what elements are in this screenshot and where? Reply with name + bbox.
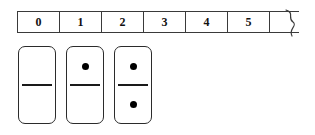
number-strip-cell-2[interactable]: 2 — [101, 11, 143, 33]
domino-1-0-bottom-half — [67, 85, 103, 123]
domino-row — [18, 46, 152, 124]
pip-icon — [82, 63, 89, 70]
domino-0-0-top-half — [19, 47, 55, 85]
number-strip-cell-5[interactable]: 5 — [227, 11, 269, 33]
number-strip-label-3: 3 — [162, 16, 168, 28]
number-strip-cell-3[interactable]: 3 — [143, 11, 185, 33]
number-strip-cell-4[interactable]: 4 — [185, 11, 227, 33]
pip-icon — [130, 63, 137, 70]
wavy-torn-edge-icon — [284, 10, 300, 36]
domino-1-0-top-half — [67, 47, 103, 85]
domino-1-1-top-half — [115, 47, 151, 85]
dominoes-number-line-figure: 0 1 2 3 4 5 — [0, 0, 315, 135]
pip-icon — [130, 101, 137, 108]
number-strip-continuation-cell — [269, 11, 299, 33]
domino-1-0[interactable] — [66, 46, 104, 124]
number-strip-cell-0[interactable]: 0 — [17, 11, 59, 33]
domino-0-0-bottom-half — [19, 85, 55, 123]
number-strip-label-4: 4 — [204, 16, 210, 28]
number-strip-label-0: 0 — [36, 16, 42, 28]
number-strip-label-5: 5 — [246, 16, 252, 28]
number-strip-label-2: 2 — [120, 16, 126, 28]
domino-1-1-bottom-half — [115, 85, 151, 123]
number-strip: 0 1 2 3 4 5 — [17, 11, 299, 33]
number-strip-cell-1[interactable]: 1 — [59, 11, 101, 33]
domino-1-1[interactable] — [114, 46, 152, 124]
number-strip-label-1: 1 — [78, 16, 84, 28]
domino-0-0[interactable] — [18, 46, 56, 124]
